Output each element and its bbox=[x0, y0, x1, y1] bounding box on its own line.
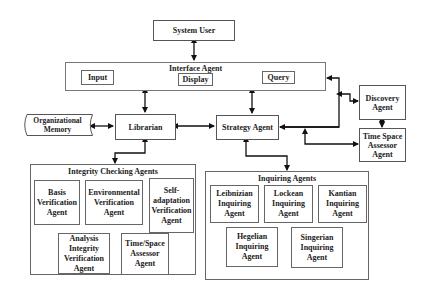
discovery-agent-label: Discovery Agent bbox=[363, 94, 402, 112]
self-adaptation-verification-agent: Self-adaptation Verification Agent bbox=[149, 178, 194, 233]
lockean-inquiring-agent: Lockean Inquiring Agent bbox=[264, 185, 313, 223]
agent-label: Hegelian Inquiring Agent bbox=[227, 232, 277, 262]
time-space-assessor-node: Time Space Assessor Agent bbox=[359, 128, 406, 162]
agent-label: Lockean Inquiring Agent bbox=[265, 189, 312, 219]
hegelian-inquiring-agent: Hegelian Inquiring Agent bbox=[226, 227, 278, 267]
analysis-integrity-verification-agent: Analysis Integrity Verification Agent bbox=[58, 233, 110, 274]
integrity-checking-title: Integrity Checking Agents bbox=[31, 167, 195, 176]
inquiring-agents-group: Inquiring Agents Leibnizian Inquiring Ag… bbox=[205, 171, 369, 280]
singerian-inquiring-agent: Singerian Inquiring Agent bbox=[291, 227, 343, 268]
kantian-inquiring-agent: Kantian Inquiring Agent bbox=[318, 185, 367, 223]
strategy-agent-node: Strategy Agent bbox=[216, 115, 279, 140]
strategy-agent-label: Strategy Agent bbox=[222, 123, 273, 132]
agent-label: Environmental Verification Agent bbox=[86, 188, 142, 218]
display-node: Display bbox=[178, 73, 213, 86]
integrity-checking-group: Integrity Checking Agents Basis Verifica… bbox=[30, 164, 196, 275]
input-label: Input bbox=[88, 73, 107, 82]
agent-label: Singerian Inquiring Agent bbox=[292, 233, 342, 263]
organizational-memory-label: Organizational Memory bbox=[22, 114, 93, 136]
display-label: Display bbox=[183, 75, 209, 84]
agent-label: Leibnizian Inquiring Agent bbox=[211, 189, 258, 219]
time-space-assessor-verification-agent: Time/Space Assessor Agent bbox=[121, 233, 169, 275]
input-node: Input bbox=[81, 70, 114, 85]
interface-agent-node: Interface Agent Input Display Query bbox=[65, 62, 326, 91]
leibnizian-inquiring-agent: Leibnizian Inquiring Agent bbox=[210, 185, 259, 223]
environmental-verification-agent: Environmental Verification Agent bbox=[85, 180, 143, 225]
system-user-label: System User bbox=[173, 26, 215, 35]
agent-label: Basis Verification Agent bbox=[35, 188, 79, 218]
inquiring-agents-title: Inquiring Agents bbox=[206, 174, 368, 183]
agent-label: Analysis Integrity Verification Agent bbox=[59, 234, 109, 274]
agent-label: Time/Space Assessor Agent bbox=[122, 239, 168, 269]
query-node: Query bbox=[262, 71, 295, 84]
discovery-agent-node: Discovery Agent bbox=[359, 85, 406, 120]
librarian-node: Librarian bbox=[115, 114, 176, 140]
basis-verification-agent: Basis Verification Agent bbox=[34, 180, 80, 225]
agent-label: Self-adaptation Verification Agent bbox=[150, 186, 193, 226]
librarian-label: Librarian bbox=[129, 123, 163, 132]
time-space-assessor-label: Time Space Assessor Agent bbox=[361, 132, 404, 159]
system-user-node: System User bbox=[153, 20, 235, 41]
query-label: Query bbox=[268, 73, 290, 82]
agent-label: Kantian Inquiring Agent bbox=[319, 189, 366, 219]
